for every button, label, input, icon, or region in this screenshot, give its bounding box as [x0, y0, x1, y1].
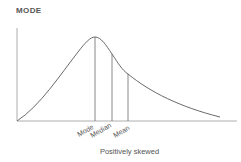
chart-caption: Positively skewed [0, 147, 241, 156]
chart-plot: Mode Median Mean [0, 0, 241, 162]
median-label: Median [89, 121, 112, 139]
distribution-curve [17, 37, 220, 121]
mean-label: Mean [112, 124, 131, 139]
caption-text: Positively skewed [100, 147, 159, 156]
